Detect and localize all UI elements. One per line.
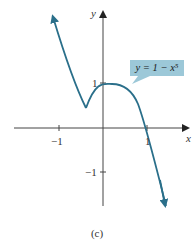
function-callout: y = 1 − x⁵ (130, 60, 184, 76)
figure-caption: (c) (0, 227, 194, 239)
plot-canvas (0, 0, 194, 249)
function-curve-left (53, 17, 86, 108)
x-tick-label-1: 1 (145, 136, 151, 147)
y-axis-label: y (91, 8, 96, 19)
function-curve-right-end (160, 180, 165, 205)
callout-pointer (132, 76, 150, 84)
x-tick-label-neg1: −1 (51, 136, 63, 147)
function-curve (86, 84, 166, 206)
x-axis-label: x (186, 133, 191, 144)
y-tick-label-neg1: −1 (85, 167, 97, 178)
y-tick-label-1: 1 (92, 78, 98, 89)
